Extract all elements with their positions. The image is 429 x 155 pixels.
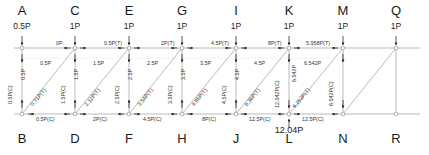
force-label-bottom-FH: 4.5P(C) — [143, 117, 162, 122]
force-label-vertical-KL: 12.042P(C) — [275, 80, 280, 108]
node-load-A: 0.5P — [5, 22, 39, 31]
node-load-K: 1P — [272, 22, 306, 31]
node-letter-H: H — [167, 132, 197, 145]
force-label-bottom-BD: 0.5P(C) — [36, 117, 55, 122]
node-letter-D: D — [60, 132, 90, 145]
node-letter-E: E — [114, 4, 144, 17]
node-letter-I: I — [221, 4, 251, 17]
dim-label-2: 0.5P — [21, 69, 26, 80]
node-load-Q: 1P — [379, 22, 413, 31]
node-letter-Q: Q — [381, 4, 411, 17]
node-load-E: 1P — [112, 22, 146, 31]
node-load-I: 1P — [219, 22, 253, 31]
dim-label-9: 4.5P — [254, 61, 265, 66]
dim-label-11: 6.542P — [304, 61, 321, 66]
force-label-vertical-EF: 2.5P(C) — [115, 85, 120, 104]
force-label-bottom-JL: 12.5P(C) — [249, 117, 271, 122]
force-label-top-EG: 2P(T) — [161, 41, 174, 46]
force-label-top-GI: 4.5P(T) — [211, 41, 229, 46]
force-label-vertical-GH: 3.5P(C) — [168, 85, 173, 104]
force-label-vertical-CD: 1.5P(C) — [61, 85, 66, 104]
force-label-top-KM: 5.958P(T) — [306, 41, 330, 46]
node-letter-R: R — [381, 132, 411, 145]
node-load-G: 1P — [165, 22, 199, 31]
force-label-vertical-MN: 6.542P(C) — [329, 81, 334, 106]
force-label-bottom-HJ: 8P(C) — [202, 117, 216, 122]
dim-label-5: 2.5P — [147, 61, 158, 66]
node-load-C: 1P — [58, 22, 92, 31]
node-load-M: 1P — [326, 22, 360, 31]
node-letter-F: F — [114, 132, 144, 145]
force-label-top-CE: 0.5P(T) — [104, 41, 122, 46]
node-letter-B: B — [7, 132, 37, 145]
dim-label-8: 3.5P — [181, 69, 186, 80]
dim-label-12: 6.542P — [292, 65, 297, 82]
dim-label-4: 1.5P — [74, 69, 79, 80]
dim-label-1: 0.5P — [40, 61, 51, 66]
support-reaction-label-L: 12.04P — [264, 126, 314, 135]
force-label-bottom-LN: 12.5P(C) — [302, 117, 324, 122]
node-letter-C: C — [60, 4, 90, 17]
truss-diagram: A 0.5P C 1P E 1P G 1P I 1P K 1P M 1P Q 1… — [0, 0, 429, 155]
node-letter-N: N — [328, 132, 358, 145]
force-label-top-IK: 8P(T) — [268, 41, 281, 46]
force-label-vertical-AB: 0.5P(C) — [8, 85, 13, 104]
node-letter-M: M — [328, 4, 358, 17]
dim-label-6: 2.5P — [128, 69, 133, 80]
node-letter-A: A — [7, 4, 37, 17]
dim-label-10: 4.5P — [235, 69, 240, 80]
node-letter-G: G — [167, 4, 197, 17]
dim-label-7: 3.5P — [200, 61, 211, 66]
force-label-bottom-DF: 2P(C) — [93, 117, 107, 122]
node-letter-J: J — [221, 132, 251, 145]
force-label-top-AC: 0P — [56, 41, 63, 46]
node-letter-K: K — [274, 4, 304, 17]
force-label-vertical-IJ: 4.5P(C) — [222, 85, 227, 104]
dim-label-3: 1.5P — [93, 61, 104, 66]
